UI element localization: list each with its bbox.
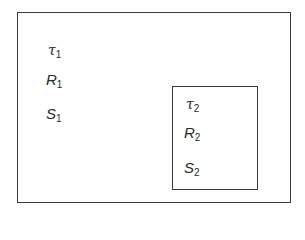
outer-label-s-subscript: 1 [56,113,62,124]
outer-label-s-symbol: S [46,105,56,122]
outer-label-r: R1 [46,72,62,90]
inner-label-tau-symbol: τ [186,96,194,112]
inner-label-tau: τ2 [186,96,199,114]
outer-label-s: S1 [46,106,62,124]
inner-label-s-symbol: S [184,159,194,176]
inner-label-r-subscript: 2 [195,132,201,143]
outer-label-r-symbol: R [46,71,57,88]
outer-label-tau-subscript: 1 [56,49,62,60]
inner-label-r-symbol: R [184,124,195,141]
inner-label-s-subscript: 2 [194,167,200,178]
inner-label-s: S2 [184,160,200,178]
outer-label-tau-symbol: τ [48,42,56,58]
outer-label-tau: τ1 [48,42,61,60]
outer-label-r-subscript: 1 [57,79,63,90]
inner-label-tau-subscript: 2 [194,103,200,114]
inner-label-r: R2 [184,125,200,143]
